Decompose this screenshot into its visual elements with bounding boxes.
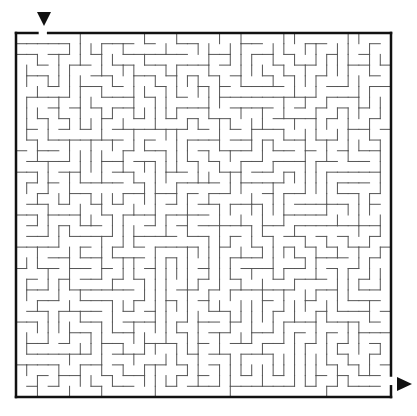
maze-walls (16, 33, 391, 397)
maze (0, 0, 417, 416)
exit-arrow-icon (397, 377, 412, 391)
start-arrow-icon (37, 12, 51, 26)
